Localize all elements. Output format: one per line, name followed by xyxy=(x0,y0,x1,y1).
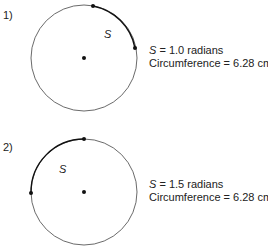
diagram-1-number: 1) xyxy=(3,9,13,21)
diagram-2-circumference: Circumference = 6.28 cm xyxy=(149,191,268,204)
circle-diagrams xyxy=(0,0,268,252)
diagram-1-angle-text: = 1.0 radians xyxy=(156,44,223,56)
diagram-2-angle-text: = 1.5 radians xyxy=(156,178,223,190)
diagram-1-caption: S = 1.0 radians Circumference = 6.28 cm xyxy=(149,44,268,70)
center-point-2 xyxy=(82,190,86,194)
diagram-1-arc-label: S xyxy=(104,28,111,40)
diagram-1-circumference: Circumference = 6.28 cm xyxy=(149,57,268,70)
arc-start-point-2 xyxy=(82,137,86,141)
arc-start-point-1 xyxy=(91,4,95,8)
arc-end-point-1 xyxy=(133,46,137,50)
diagram-2-arc-label: S xyxy=(59,163,66,175)
diagram-2-number: 2) xyxy=(3,141,13,153)
arc-end-point-2 xyxy=(29,191,33,195)
arc-1 xyxy=(93,6,135,48)
diagram-2-caption: S = 1.5 radians Circumference = 6.28 cm xyxy=(149,178,268,204)
center-point-1 xyxy=(82,56,86,60)
arc-2 xyxy=(31,139,84,193)
